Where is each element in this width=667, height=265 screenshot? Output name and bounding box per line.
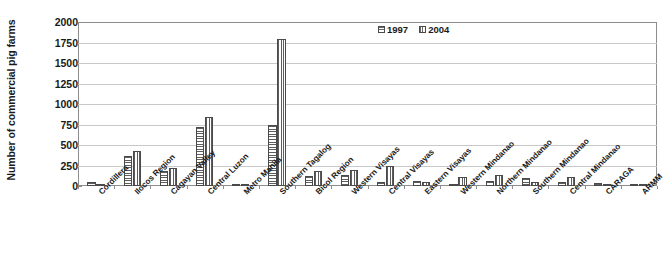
y-axis-tick-label: 1750 bbox=[40, 38, 78, 48]
y-axis-tick-label: 0 bbox=[40, 181, 78, 191]
x-axis-tick-mark bbox=[259, 186, 260, 189]
bar-group bbox=[621, 22, 657, 186]
x-axis-tick-mark bbox=[476, 186, 477, 189]
y-axis-tick-label: 1000 bbox=[40, 99, 78, 109]
x-axis-tick-mark bbox=[223, 186, 224, 189]
legend-swatch-icon-2004 bbox=[419, 26, 426, 33]
y-axis-tick-labels: 200017501500125010007505002500 bbox=[34, 22, 78, 186]
x-axis-tick-mark bbox=[512, 186, 513, 189]
x-axis-tick-mark bbox=[295, 186, 296, 189]
x-axis-tick-mark bbox=[187, 186, 188, 189]
y-axis-tick-label: 1500 bbox=[40, 58, 78, 68]
bar-1997 bbox=[522, 178, 530, 186]
legend-item-1997: 1997 bbox=[378, 24, 408, 35]
y-axis-tick-label: 750 bbox=[40, 120, 78, 130]
bar-group bbox=[78, 22, 114, 186]
y-axis-tick-label: 1250 bbox=[40, 79, 78, 89]
legend-swatch-icon-1997 bbox=[378, 26, 385, 33]
y-axis-tick-label: 500 bbox=[40, 140, 78, 150]
bar-group bbox=[114, 22, 150, 186]
y-axis-title-text: Number of commercial pig farms bbox=[5, 20, 17, 181]
bar-1997 bbox=[341, 175, 349, 186]
y-axis-tick-label: 250 bbox=[40, 161, 78, 171]
x-axis-tick-mark bbox=[621, 186, 622, 189]
x-axis-tick-mark bbox=[548, 186, 549, 189]
legend-label-1997: 1997 bbox=[387, 24, 408, 35]
x-axis-tick-mark bbox=[78, 186, 79, 189]
x-axis-tick-mark bbox=[657, 186, 658, 189]
y-axis-title: Number of commercial pig farms bbox=[0, 0, 22, 200]
legend-item-2004: 2004 bbox=[419, 24, 449, 35]
bar-2004 bbox=[133, 151, 141, 186]
x-axis-tick-mark bbox=[368, 186, 369, 189]
x-axis-tick-mark bbox=[440, 186, 441, 189]
legend-label-2004: 2004 bbox=[428, 24, 449, 35]
x-axis-tick-mark bbox=[404, 186, 405, 189]
bar-1997 bbox=[305, 176, 313, 186]
x-axis-tick-mark bbox=[114, 186, 115, 189]
x-axis-tick-mark bbox=[150, 186, 151, 189]
x-axis-tick-mark bbox=[331, 186, 332, 189]
y-axis-tick-label: 2000 bbox=[40, 17, 78, 27]
bar-chart-figure: Number of commercial pig farms 200017501… bbox=[0, 0, 667, 265]
x-axis-tick-labels: CordilleraIlocos RegionCagayan ValleyCen… bbox=[78, 190, 667, 265]
x-axis-tick-mark bbox=[585, 186, 586, 189]
chart-legend: 1997 2004 bbox=[378, 24, 449, 35]
